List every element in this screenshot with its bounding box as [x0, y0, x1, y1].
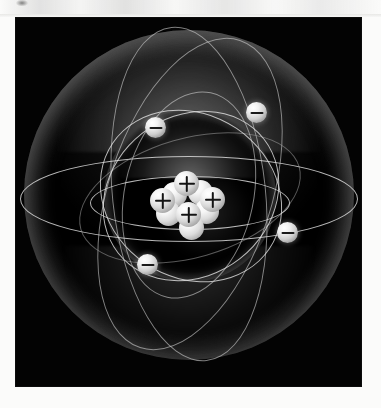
proton-particle — [200, 187, 225, 212]
page-background — [0, 0, 381, 408]
electron-top-left — [145, 117, 166, 138]
minus-icon — [281, 231, 294, 233]
proton-particle — [176, 202, 201, 227]
electron-top-right — [246, 102, 267, 123]
minus-icon — [141, 263, 154, 265]
proton-particle — [150, 188, 175, 213]
top-page-remnant — [0, 0, 381, 15]
proton-particle — [174, 171, 199, 196]
electron-bottom-left — [137, 254, 158, 275]
illustration-panel — [16, 18, 361, 386]
minus-icon — [250, 111, 263, 113]
top-divider — [0, 14, 381, 17]
atom-illustration — [16, 18, 361, 386]
electron-right — [277, 222, 298, 243]
minus-icon — [149, 126, 162, 128]
